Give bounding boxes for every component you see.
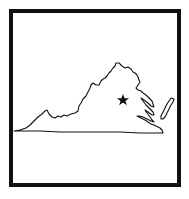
state-outline	[14, 63, 163, 133]
virginia-map	[0, 0, 189, 199]
eastern-shore-outline	[161, 98, 174, 119]
star-icon	[117, 94, 129, 105]
